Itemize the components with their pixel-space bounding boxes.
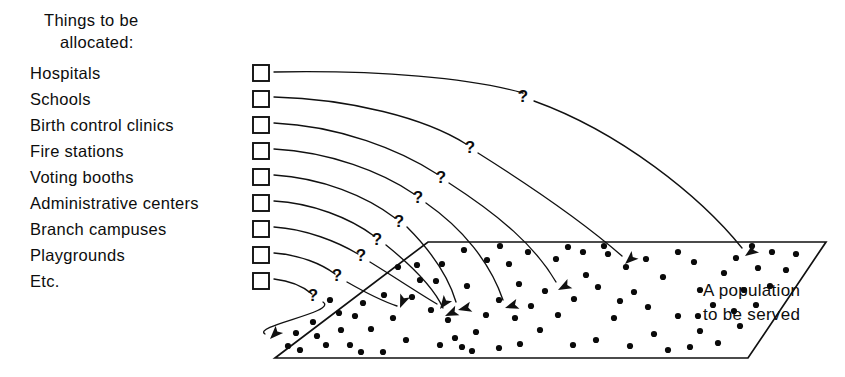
population-dot [687,344,693,350]
checkbox-birth-control-clinics[interactable] [253,117,269,133]
population-dot [459,344,465,350]
checkbox-hospitals[interactable] [253,65,269,81]
population-dot [645,304,651,310]
checkbox-playgrounds[interactable] [253,247,269,263]
checkbox-voting-booths[interactable] [253,169,269,185]
item-label-branch-campuses: Branch campuses [30,220,167,238]
arrow-segment-end [478,153,622,256]
population-dot [433,278,439,284]
population-dot [665,347,671,353]
population-dot [395,264,401,270]
population-dot [336,310,342,316]
population-dot [721,270,727,276]
arrow-question-mark: ? [308,286,318,305]
arrow-segment-start [274,175,395,218]
arrow-segment-start [274,72,523,93]
checkbox-schools[interactable] [253,91,269,107]
population-dot [697,328,703,334]
population-dot [601,243,607,249]
population-dot [380,349,386,355]
population-dot [483,312,489,318]
population-dot [651,331,657,337]
arrowhead-icon [457,302,473,315]
population-dot [506,261,512,267]
population-dot [310,319,316,325]
population-dot [695,313,701,319]
item-label-schools: Schools [30,90,91,108]
population-dot [512,315,518,321]
population-dot [428,307,434,313]
arrow-question-mark: ? [394,212,404,231]
population-dot [461,247,467,253]
population-dot [565,244,571,250]
arrow-segment-end [534,101,742,248]
allocation-item-labels: Hospitals Schools Birth control clinics … [30,64,199,290]
arrow-segment-start [274,123,437,174]
arrow-segment-start [274,149,414,194]
item-label-voting-booths: Voting booths [30,168,134,186]
population-dot [553,256,559,262]
population-dot [525,249,531,255]
list-heading-line-1: Things to be [44,11,138,29]
arrow-question-mark: ? [518,87,528,106]
population-dot [293,330,299,336]
item-label-etc: Etc. [30,272,60,290]
arrow-segment-end [449,183,556,282]
allocation-arrow: ? [274,201,459,321]
population-dot [595,284,601,290]
arrow-question-mark: ? [465,138,475,157]
allocation-arrows: ????????? [264,72,759,343]
population-dot [580,249,586,255]
population-dot [516,281,522,287]
population-dot [643,256,649,262]
population-dot [496,297,502,303]
arrowhead-icon [436,295,452,312]
arrowhead-icon [395,294,410,310]
figure-canvas: Things to be allocated: Hospitals School… [0,0,845,377]
item-label-birth-control-clinics: Birth control clinics [30,116,174,134]
population-dot [583,272,589,278]
checkbox-etc[interactable] [253,273,269,289]
population-dot [497,243,503,249]
population-dot [452,335,458,341]
item-label-hospitals: Hospitals [30,64,101,82]
population-dot [570,342,576,348]
population-dot [390,315,396,321]
checkbox-fire-stations[interactable] [253,143,269,159]
population-dot [793,251,799,257]
population-dot [769,249,775,255]
checkbox-administrative-centers[interactable] [253,195,269,211]
population-dot [327,297,333,303]
population-dot [285,343,291,349]
allocation-arrow: ? [274,227,452,312]
item-label-administrative-centers: Administrative centers [30,194,199,212]
population-dot [623,264,629,270]
population-dot [473,329,479,335]
population-dot [593,337,599,343]
checkbox-group[interactable] [253,65,269,289]
population-dot [605,251,611,257]
population-dot [445,317,451,323]
population-dot [537,327,543,333]
arrow-question-mark: ? [413,188,423,207]
population-dot [617,298,623,304]
item-label-playgrounds: Playgrounds [30,246,125,264]
arrow-segment-start [274,227,358,254]
population-dot [783,267,789,273]
checkbox-branch-campuses[interactable] [253,221,269,237]
population-dot [675,249,681,255]
arrowhead-icon [556,279,573,295]
arrow-question-mark: ? [332,266,342,285]
population-dot [555,312,561,318]
population-dot [496,345,502,351]
population-dot [660,274,666,280]
arrow-segment-end [347,282,397,306]
population-dot [469,348,475,354]
population-dot [381,292,387,298]
population-dot [627,343,633,349]
population-dot [755,265,761,271]
population-dot [611,315,617,321]
population-dot [347,342,353,348]
list-heading: Things to be allocated: [44,11,138,51]
arrow-segment-end [264,302,325,334]
